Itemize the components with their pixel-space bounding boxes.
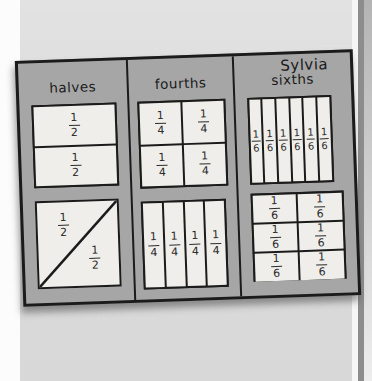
fraction-numerator: 1	[251, 128, 260, 141]
fraction-numerator: 1	[89, 245, 100, 259]
page-edge-margin	[364, 0, 372, 381]
fraction-cell: 16	[249, 99, 264, 182]
fraction-label: 16	[251, 128, 260, 153]
fraction-label: 16	[306, 127, 315, 152]
fraction-denominator: 6	[273, 267, 280, 280]
fourths-shapes: 1414141414141414	[137, 99, 232, 290]
fraction-numerator: 1	[68, 111, 79, 125]
fraction-denominator: 6	[271, 209, 278, 222]
fraction-denominator: 4	[200, 122, 207, 135]
fraction-numerator: 1	[320, 126, 329, 139]
fraction-numerator: 1	[210, 229, 221, 243]
column-halves: halves 12121212	[18, 60, 136, 304]
fraction-numerator: 1	[265, 128, 274, 141]
fraction-numerator: 1	[57, 211, 68, 225]
fraction-denominator: 4	[192, 244, 199, 257]
sixths-model-2: 161616161616	[250, 191, 346, 282]
fraction-denominator: 4	[202, 165, 209, 178]
fraction-label: 14	[168, 231, 180, 259]
fraction-cell: 14	[143, 203, 165, 288]
fraction-label: 16	[265, 128, 274, 153]
fraction-numerator: 1	[199, 150, 210, 164]
fraction-denominator: 2	[92, 259, 99, 272]
fraction-cell: 12	[33, 105, 115, 146]
fraction-numerator: 1	[156, 152, 167, 166]
fraction-denominator: 4	[159, 166, 166, 179]
fraction-label: 14	[199, 150, 211, 178]
sixths-shapes: 161616161616161616161616	[247, 95, 346, 282]
fraction-cell: 16	[276, 98, 291, 181]
fraction-cell: 14	[182, 101, 224, 143]
fraction-cell: 16	[300, 251, 344, 280]
fraction-label: 16	[292, 127, 301, 152]
fourths-model-1: 14141414	[137, 99, 228, 189]
fraction-label: 12	[70, 152, 82, 180]
fraction-numerator: 1	[269, 224, 280, 238]
fraction-numerator: 1	[168, 231, 179, 245]
column-sixths-label: sixths	[271, 71, 314, 88]
fraction-label: 14	[155, 109, 167, 137]
diagonal-line	[36, 201, 119, 288]
halves-model-2: 1212	[34, 198, 121, 289]
fraction-denominator: 6	[316, 207, 323, 220]
column-fourths-label: fourths	[155, 74, 207, 92]
fraction-label: 14	[189, 230, 201, 258]
fraction-cell: 14	[141, 145, 183, 187]
fraction-label: 14	[156, 152, 168, 180]
fraction-numerator: 1	[268, 195, 279, 209]
halves-shapes: 12121212	[31, 102, 122, 289]
fraction-board: Sylvia halves 12121212 fourths 141414141…	[15, 49, 361, 307]
fraction-cell: 16	[290, 98, 305, 181]
fraction-cell: 14	[184, 143, 226, 185]
fraction-denominator: 6	[294, 140, 301, 152]
fraction-numerator: 1	[148, 231, 159, 245]
fraction-numerator: 1	[189, 230, 200, 244]
fraction-cell: 14	[205, 201, 227, 286]
fraction-numerator: 1	[292, 127, 301, 140]
fraction-numerator: 1	[315, 222, 326, 236]
fraction-numerator: 1	[70, 152, 81, 166]
fraction-label: 12	[68, 111, 80, 139]
fraction-numerator: 1	[306, 127, 315, 140]
fraction-label: 16	[315, 222, 327, 250]
column-sixths: sixths 161616161616161616161616	[234, 52, 358, 296]
fraction-denominator: 6	[318, 266, 325, 279]
fraction-numerator: 1	[316, 252, 327, 266]
fraction-label: 16	[316, 252, 328, 280]
fraction-denominator: 2	[72, 166, 79, 179]
fraction-label: 16	[268, 195, 280, 223]
fraction-denominator: 6	[272, 238, 279, 251]
fraction-cell: 14	[184, 201, 206, 286]
fraction-cell: 16	[254, 253, 298, 282]
fraction-cell: 16	[262, 99, 277, 182]
fraction-cell: 14	[139, 102, 181, 144]
column-halves-label: halves	[49, 78, 96, 96]
fraction-cell: 12	[34, 145, 116, 186]
fraction-cell: 16	[317, 97, 332, 180]
column-fourths: fourths 1414141414141414	[128, 56, 242, 300]
fraction-denominator: 4	[171, 245, 178, 258]
fraction-label: 12	[89, 245, 101, 273]
fraction-denominator: 6	[308, 140, 315, 152]
fraction-denominator: 6	[317, 237, 324, 250]
halves-model-1: 1212	[31, 102, 119, 188]
fraction-denominator: 6	[267, 141, 274, 153]
fraction-label: 14	[210, 229, 222, 257]
fraction-cell: 14	[164, 202, 186, 287]
fraction-cell: 16	[299, 222, 343, 251]
fraction-label: 14	[198, 108, 210, 136]
fraction-label: 16	[270, 253, 282, 281]
fraction-numerator: 1	[198, 108, 209, 122]
fraction-denominator: 4	[157, 124, 164, 137]
fraction-label: 12	[57, 211, 69, 239]
board-columns: halves 12121212 fourths 1414141414141414…	[18, 52, 358, 303]
fraction-label: 14	[148, 231, 160, 259]
fraction-cell: 16	[252, 194, 296, 223]
fraction-numerator: 1	[155, 109, 166, 123]
fraction-denominator: 2	[60, 225, 67, 238]
fraction-label: 16	[279, 128, 288, 153]
fourths-model-2: 14141414	[141, 199, 229, 290]
fraction-numerator: 1	[314, 193, 325, 207]
fraction-denominator: 4	[212, 243, 219, 256]
fraction-denominator: 6	[321, 139, 328, 151]
